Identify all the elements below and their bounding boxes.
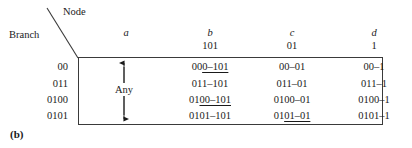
row-label: 00 — [0, 60, 73, 73]
cell-plain: 0100–1 — [358, 94, 390, 105]
cell-plain: 00–1 — [364, 61, 385, 72]
node-axis-label: Node — [63, 6, 86, 18]
row-label: 0100 — [0, 93, 73, 106]
column-header-d-name: d — [326, 26, 412, 39]
cell-plain: 0101–101 — [189, 110, 231, 121]
cell-d-row-0101: 0101–1 — [326, 109, 412, 122]
row-label: 0101 — [0, 109, 73, 122]
column-header-d-code: 1 — [326, 39, 412, 52]
cell-plain: 011–1 — [361, 78, 387, 89]
cell-plain: 00–01 — [279, 61, 305, 72]
column-headers: a b 101 c 01 d 1 — [78, 26, 383, 57]
cell-plain: 01 — [274, 110, 285, 121]
cell-d-row-00: 00–1 — [326, 60, 412, 73]
cell-plain: 00 — [192, 61, 203, 72]
cell-plain: 011–101 — [192, 78, 228, 89]
cell-underlined: 0–101 — [202, 61, 228, 72]
column-a-any-label: Any — [94, 83, 154, 96]
cell-d-row-0100: 0100–1 — [326, 93, 412, 106]
table-cells: Any 000–101 00–01 00–1 011–101 011–01 01… — [78, 57, 383, 125]
cell-plain: 011–01 — [276, 78, 307, 89]
cell-plain: 0100–01 — [274, 94, 311, 105]
figure-caption: (b) — [10, 128, 23, 141]
branch-axis-label: Branch — [9, 29, 39, 41]
cell-plain: 01 — [189, 94, 200, 105]
row-label: 011 — [0, 77, 73, 90]
column-header-d: d 1 — [326, 26, 412, 52]
row-labels: 00 011 0100 0101 — [0, 57, 73, 125]
cell-plain: 0101–1 — [358, 110, 390, 121]
column-header-a: a — [78, 26, 174, 39]
cell-underlined: 01–01 — [284, 110, 310, 121]
figure-b: Node Branch a b 101 c 01 d 1 00 011 0100… — [0, 0, 412, 148]
cell-underlined: 00–101 — [200, 94, 232, 105]
cell-d-row-011: 011–1 — [326, 77, 412, 90]
column-header-a-name: a — [78, 26, 174, 39]
